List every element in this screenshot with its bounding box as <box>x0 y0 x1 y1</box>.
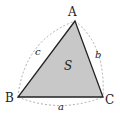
side-label-b: b <box>95 49 101 60</box>
vertex-label-b: B <box>5 91 14 105</box>
area-label: S <box>64 59 72 73</box>
side-label-c: c <box>35 46 41 57</box>
vertex-label-a: A <box>67 5 77 19</box>
triangle-diagram: A B C a b c S <box>0 0 120 118</box>
triangle-shape <box>18 21 103 97</box>
vertex-label-c: C <box>105 93 114 107</box>
side-label-a: a <box>58 101 64 112</box>
